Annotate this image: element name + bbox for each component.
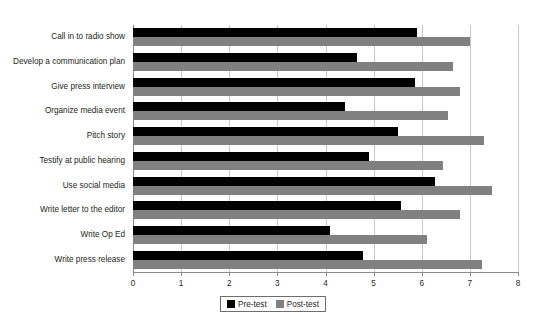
legend-item-label: Post-test xyxy=(287,300,319,309)
black-square-swatch xyxy=(227,300,235,308)
x-axis-tick-label: 5 xyxy=(362,279,386,289)
bar-group xyxy=(133,25,518,50)
bar-pre-test xyxy=(133,152,369,161)
bar-pre-test xyxy=(133,78,415,87)
y-axis-label: Give press interview xyxy=(51,82,125,92)
y-axis-label: Use social media xyxy=(63,181,125,191)
bar-pre-test xyxy=(133,127,398,136)
bar-pre-test xyxy=(133,201,401,210)
plot-area xyxy=(133,25,518,272)
bar-group xyxy=(133,99,518,124)
legend-item-label: Pre-test xyxy=(238,300,267,309)
bar-post-test xyxy=(133,161,443,170)
bar-group xyxy=(133,50,518,75)
bar-group xyxy=(133,74,518,99)
bar-post-test xyxy=(133,111,448,120)
x-axis-tick-mark xyxy=(518,272,519,276)
bar-post-test xyxy=(133,62,453,71)
legend-item-post-test[interactable]: Post-test xyxy=(276,300,319,309)
bar-pre-test xyxy=(133,177,435,186)
x-axis-tick-label: 0 xyxy=(121,279,145,289)
y-axis-label: Develop a communication plan xyxy=(13,57,125,67)
x-axis-tick-label: 7 xyxy=(458,279,482,289)
bar-post-test xyxy=(133,87,460,96)
legend-item-pre-test[interactable]: Pre-test xyxy=(227,300,267,309)
bar-group xyxy=(133,124,518,149)
x-axis-tick-mark xyxy=(374,272,375,276)
bar-group xyxy=(133,198,518,223)
y-axis-label: Organize media event xyxy=(45,106,125,116)
bar-post-test xyxy=(133,210,460,219)
y-axis-label: Write Op Ed xyxy=(81,230,125,240)
y-axis-label: Write press release xyxy=(55,255,125,265)
bar-pre-test xyxy=(133,53,357,62)
y-axis-label: Testify at public hearing xyxy=(39,156,125,166)
bar-pre-test xyxy=(133,28,417,37)
x-axis-tick-mark xyxy=(470,272,471,276)
bar-pre-test xyxy=(133,102,345,111)
x-axis-tick-mark xyxy=(181,272,182,276)
bar-post-test xyxy=(133,235,427,244)
x-axis-tick-label: 1 xyxy=(169,279,193,289)
bar-chart: Call in to radio showDevelop a communica… xyxy=(0,0,546,325)
x-axis-tick-label: 2 xyxy=(217,279,241,289)
x-gridline xyxy=(518,25,519,272)
bar-post-test xyxy=(133,186,492,195)
x-axis-tick-label: 6 xyxy=(410,279,434,289)
x-axis-tick-mark xyxy=(326,272,327,276)
bar-pre-test xyxy=(133,226,330,235)
x-axis-tick-label: 8 xyxy=(506,279,530,289)
bar-group xyxy=(133,173,518,198)
chart-legend: Pre-testPost-test xyxy=(220,296,326,312)
y-axis-label: Call in to radio show xyxy=(51,32,125,42)
gray-square-swatch xyxy=(276,300,284,308)
x-axis-tick-mark xyxy=(277,272,278,276)
bar-group xyxy=(133,149,518,174)
y-axis-label: Pitch story xyxy=(87,131,125,141)
bar-post-test xyxy=(133,136,484,145)
x-axis-tick-mark xyxy=(133,272,134,276)
bar-pre-test xyxy=(133,251,363,260)
bar-post-test xyxy=(133,260,482,269)
x-axis-tick-mark xyxy=(422,272,423,276)
bar-group xyxy=(133,223,518,248)
bar-post-test xyxy=(133,37,470,46)
bar-group xyxy=(133,247,518,272)
y-axis-label: Write letter to the editor xyxy=(40,205,125,215)
y-axis-category-labels: Call in to radio showDevelop a communica… xyxy=(0,25,130,272)
x-axis-tick-label: 3 xyxy=(265,279,289,289)
x-axis-tick-mark xyxy=(229,272,230,276)
x-axis-tick-label: 4 xyxy=(314,279,338,289)
